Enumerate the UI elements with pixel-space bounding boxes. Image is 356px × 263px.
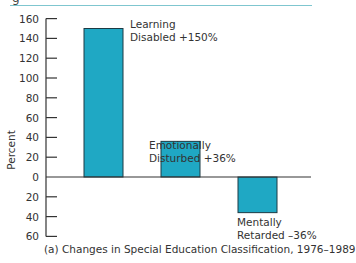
bar bbox=[238, 177, 277, 213]
y-tick-label: 40 bbox=[26, 211, 39, 223]
bar-annotation: Learning bbox=[130, 18, 176, 30]
y-tick-label: 140 bbox=[19, 32, 39, 44]
y-tick-label: 160 bbox=[19, 13, 39, 25]
bar-annotation: Disturbed +36% bbox=[149, 152, 236, 164]
bar-annotation: Emotionally bbox=[149, 139, 211, 151]
chart-caption: (a) Changes in Special Education Classif… bbox=[44, 243, 356, 255]
y-axis-label: Percent bbox=[5, 130, 17, 170]
y-tick-label: 80 bbox=[26, 92, 39, 104]
y-tick-label: 0 bbox=[32, 171, 39, 183]
y-tick-label: 120 bbox=[19, 52, 39, 64]
y-tick-label: 20 bbox=[26, 151, 39, 163]
bar-annotation: Retarded –36% bbox=[237, 229, 317, 241]
bar bbox=[84, 29, 123, 178]
y-tick-label: 40 bbox=[26, 131, 39, 143]
y-tick-label: 60 bbox=[26, 112, 39, 124]
bar-annotation: Mentally bbox=[237, 216, 282, 228]
y-tick-label: 100 bbox=[19, 72, 39, 84]
y-tick-label: 60 bbox=[26, 230, 39, 242]
bar-annotation: Disabled +150% bbox=[130, 31, 218, 43]
y-tick-label: 20 bbox=[26, 191, 39, 203]
